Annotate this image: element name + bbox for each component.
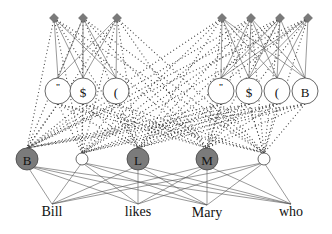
feature-node: B (292, 78, 318, 104)
tag-node-label: L (134, 153, 142, 168)
feature-node: $ (236, 78, 262, 104)
feature-tag-edge (27, 104, 58, 148)
diamond-tag-edge (138, 18, 222, 148)
tag-node (76, 153, 88, 165)
feature-tag-edge (82, 104, 249, 153)
tag-node-label: M (201, 153, 213, 168)
diamond-feature-edge (116, 18, 117, 78)
feature-node: " (208, 78, 234, 104)
diamond-feature-edge (58, 18, 83, 78)
word-label: Mary (192, 205, 222, 220)
diamond-feature-edge (54, 18, 58, 78)
diamond-feature-edge (222, 18, 249, 78)
tag-node-label: B (23, 153, 32, 168)
tag-word-edge (52, 166, 207, 204)
feature-node-label: B (301, 85, 310, 100)
feature-tag-edge (27, 104, 277, 148)
feature-node-label: $ (246, 85, 253, 100)
feature-tag-edge (58, 104, 82, 153)
tag-nodes: BLM (16, 148, 270, 170)
solid-connections (27, 18, 308, 205)
diamond-feature-edge (54, 18, 83, 78)
tag-word-edge (27, 166, 291, 204)
tag-node-circle (76, 153, 88, 165)
word-label: likes (125, 204, 151, 219)
feature-tag-edge (221, 104, 264, 153)
diamond-feature-edge (54, 18, 116, 78)
diamond-feature-edge (58, 18, 117, 78)
tag-word-edge (27, 166, 52, 204)
feature-node-label: " (219, 82, 224, 92)
feature-node-label: $ (80, 85, 87, 100)
tag-word-edge (52, 163, 264, 204)
diamond-tag-edge (138, 18, 251, 148)
network-diagram: "$("$(B BLM BilllikesMarywho (0, 0, 332, 234)
feature-tag-edge (138, 104, 221, 148)
feature-tag-edge (27, 104, 116, 148)
diamond-feature-edge (221, 18, 251, 78)
feature-node-label: " (56, 82, 61, 92)
diamond-feature-edge (251, 18, 305, 78)
feature-node: ( (103, 78, 129, 104)
tag-word-edge (27, 166, 207, 205)
feature-tag-edge (207, 104, 277, 148)
diamond-tag-edge (27, 18, 308, 148)
word-label: who (279, 204, 303, 219)
tag-word-edge (82, 163, 138, 204)
feature-tag-edge (27, 104, 221, 148)
feature-tag-edge (83, 104, 207, 148)
diamond-feature-edge (305, 18, 308, 78)
feature-tag-edge (27, 104, 305, 148)
feature-node-label: ( (114, 85, 118, 100)
tag-node: B (16, 148, 38, 170)
feature-node: " (45, 78, 71, 104)
feature-node-label: ( (275, 85, 279, 100)
feature-node: $ (70, 78, 96, 104)
tag-node-circle (258, 153, 270, 165)
word-labels: BilllikesMarywho (41, 204, 303, 220)
tag-node (258, 153, 270, 165)
word-label: Bill (41, 204, 62, 219)
diamond-tag-edge (27, 18, 117, 148)
diamond-tag-edge (117, 18, 207, 148)
feature-tag-edge (138, 104, 249, 148)
tag-node: M (196, 148, 218, 170)
feature-node: ( (264, 78, 290, 104)
tag-node: L (127, 148, 149, 170)
feature-tag-edge (83, 104, 264, 153)
